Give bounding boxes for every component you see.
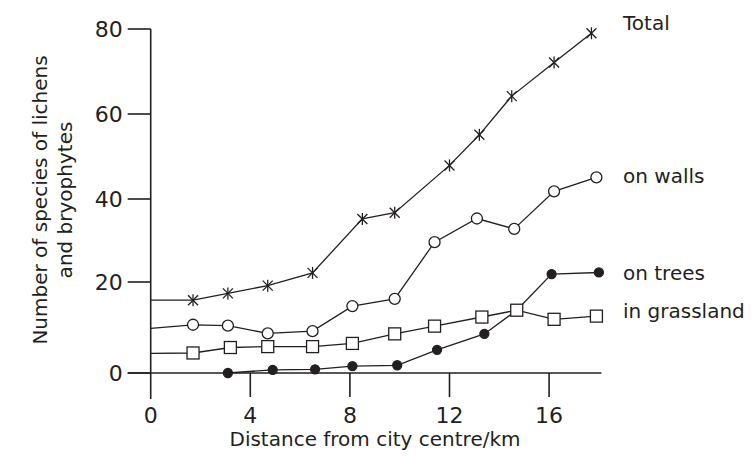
square-marker [429, 320, 441, 332]
series-label: on walls [623, 164, 704, 188]
series-on-trees [223, 268, 603, 378]
y-axis-title-line1: Number of species of lichens [28, 55, 52, 344]
cross-marker [507, 90, 517, 102]
circle-marker [347, 301, 358, 312]
circle-marker [549, 186, 560, 197]
dot-marker [547, 270, 556, 279]
y-tick-label: 60 [95, 102, 123, 127]
series-line [151, 33, 592, 300]
y-tick-label: 20 [95, 270, 123, 295]
cross-marker [390, 207, 400, 219]
cross-marker [357, 213, 367, 225]
series-line [151, 177, 597, 333]
cross-marker [474, 129, 484, 141]
cross-marker [308, 267, 318, 279]
square-marker [307, 341, 319, 353]
dot-marker [348, 362, 357, 371]
square-marker [548, 313, 560, 325]
dot-marker [311, 365, 320, 374]
circle-marker [262, 328, 273, 339]
dot-marker [223, 369, 232, 378]
square-marker [511, 304, 523, 316]
series-in-grassland [151, 304, 603, 359]
dot-marker [480, 329, 489, 338]
cross-marker [586, 27, 596, 39]
x-tick-label: 0 [144, 403, 158, 428]
circle-marker [222, 320, 233, 331]
series-label: in grassland [623, 299, 745, 323]
cross-marker [549, 57, 559, 69]
x-tick-label: 12 [436, 403, 464, 428]
x-tick-label: 16 [535, 403, 563, 428]
circle-marker [429, 237, 440, 248]
dot-marker [433, 345, 442, 354]
circle-marker [389, 293, 400, 304]
dot-marker [594, 268, 603, 277]
dot-marker [268, 365, 277, 374]
y-tick-label: 80 [95, 17, 123, 42]
circle-marker [509, 223, 520, 234]
series-label: on trees [623, 261, 705, 285]
cross-marker [445, 159, 455, 171]
y-tick-label: 40 [95, 187, 123, 212]
series-labels: Totalon wallson treesin grassland [622, 11, 745, 323]
x-axis-title: Distance from city centre/km [229, 427, 520, 451]
square-marker [389, 328, 401, 340]
x-tick-label: 8 [343, 403, 357, 428]
y-axis: 020406080 [95, 17, 151, 399]
square-marker [224, 342, 236, 354]
series-line [151, 310, 597, 353]
square-marker [476, 311, 488, 323]
square-marker [262, 341, 274, 353]
square-marker [187, 347, 199, 359]
circle-marker [307, 326, 318, 337]
y-tick-label: 0 [109, 361, 123, 386]
x-tick-label: 4 [243, 403, 257, 428]
y-axis-title-line2: and bryophytes [53, 122, 77, 279]
circle-marker [188, 319, 199, 330]
square-marker [346, 337, 358, 349]
series-total [151, 27, 597, 306]
dot-marker [393, 361, 402, 370]
x-axis: 0481216 [128, 373, 602, 428]
line-chart: 020406080 0481216 Number of species of l… [0, 0, 753, 465]
circle-marker [591, 172, 602, 183]
series-group [151, 27, 604, 377]
square-marker [590, 310, 602, 322]
series-label: Total [622, 11, 670, 35]
series-line [228, 273, 599, 374]
circle-marker [471, 213, 482, 224]
